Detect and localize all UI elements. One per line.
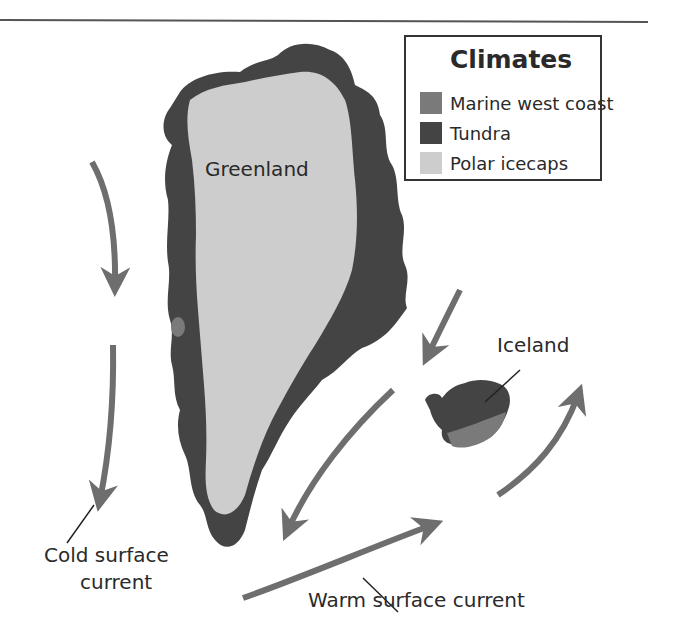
legend-label: Marine west coast <box>450 93 614 114</box>
cold-current-arrow-3 <box>428 290 460 355</box>
top-rule <box>0 20 648 22</box>
legend-label: Tundra <box>450 123 511 144</box>
iceland-label: Iceland <box>497 333 569 357</box>
greenland-marine-patch <box>171 317 185 337</box>
legend-item-tundra: Tundra <box>420 121 511 145</box>
marine-swatch <box>420 92 442 114</box>
legend-title: Climates <box>450 45 572 74</box>
cold-current-arrow-4 <box>288 390 393 530</box>
cold-current-label-1: Cold surface <box>44 543 169 567</box>
cold-current-arrow-2 <box>100 345 113 500</box>
legend-label: Polar icecaps <box>450 153 568 174</box>
tundra-swatch <box>420 122 442 144</box>
cold-current-label-2: current <box>80 570 152 594</box>
greenland-label: Greenland <box>205 157 309 181</box>
legend-item-marine: Marine west coast <box>420 91 614 115</box>
legend: Climates Marine west coast Tundra Polar … <box>404 35 602 181</box>
cold-current-arrow-1 <box>92 162 115 285</box>
warm-current-arrow-2 <box>498 395 578 495</box>
cold-current-leader <box>67 505 94 543</box>
legend-item-icecap: Polar icecaps <box>420 151 568 175</box>
icecap-swatch <box>420 152 442 174</box>
warm-current-label: Warm surface current <box>308 588 525 612</box>
